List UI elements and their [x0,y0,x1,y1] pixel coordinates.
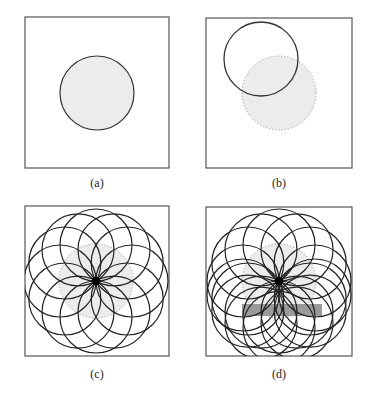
panel-a-caption: (a) [90,176,103,191]
panel-a [25,17,169,168]
center-point-dot [92,277,100,285]
center-point-dot [275,277,283,285]
panel-c [24,206,169,356]
panel-b [206,18,352,168]
panel-d [206,207,352,363]
panel-b-caption: (b) [272,176,286,191]
figure-canvas [0,0,374,394]
coverage-area-circle [242,56,316,130]
coverage-area-circle [60,56,134,130]
panel-c-caption: (c) [90,367,103,382]
panel-d-caption: (d) [272,367,286,382]
